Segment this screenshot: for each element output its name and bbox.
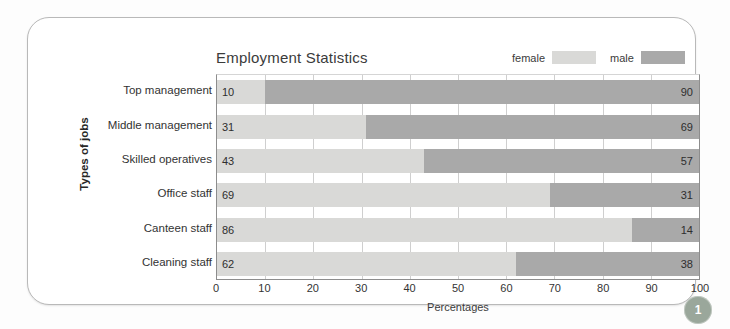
bar-value-male: 38	[681, 258, 693, 270]
category-axis-labels: Top managementMiddle managementSkilled o…	[90, 74, 212, 280]
bar-segment-female: 86	[217, 218, 632, 242]
bar-segment-female: 43	[217, 149, 424, 173]
bar-segment-male: 90	[265, 80, 699, 104]
bar-segment-male: 38	[516, 252, 699, 276]
category-label: Canteen staff	[90, 222, 212, 234]
x-tick-label: 20	[307, 282, 319, 294]
x-tick-label: 50	[452, 282, 464, 294]
bar-value-female: 31	[222, 121, 234, 133]
plot-area: 109031694357693186146238	[216, 74, 700, 280]
bar-segment-female: 10	[217, 80, 265, 104]
bar-row: 3169	[217, 115, 699, 139]
legend-item-male: male	[610, 51, 685, 64]
bar-row: 1090	[217, 80, 699, 104]
bar-value-male: 31	[681, 189, 693, 201]
chart-title: Employment Statistics	[216, 49, 368, 66]
bar-segment-male: 31	[550, 183, 699, 207]
y-axis-title: Types of jobs	[78, 94, 90, 214]
x-tick-label: 10	[258, 282, 270, 294]
bar-value-male: 14	[681, 224, 693, 236]
x-tick-label: 70	[549, 282, 561, 294]
page-canvas: Employment Statistics female male Types …	[0, 0, 730, 329]
bar-row: 4357	[217, 149, 699, 173]
category-label: Middle management	[90, 119, 212, 131]
legend-swatch-female	[552, 51, 596, 64]
bar-segment-male: 57	[424, 149, 699, 173]
legend-swatch-male	[641, 51, 685, 64]
x-tick-label: 60	[500, 282, 512, 294]
bar-segment-female: 62	[217, 252, 516, 276]
bar-row: 6931	[217, 183, 699, 207]
bar-value-male: 90	[681, 86, 693, 98]
category-label: Office staff	[90, 187, 212, 199]
category-label: Top management	[90, 84, 212, 96]
bar-row: 6238	[217, 252, 699, 276]
chart-legend: female male	[512, 51, 685, 64]
x-tick-label: 30	[355, 282, 367, 294]
legend-label-female: female	[512, 52, 545, 64]
category-label: Skilled operatives	[90, 153, 212, 165]
bar-value-female: 43	[222, 155, 234, 167]
bar-segment-female: 31	[217, 115, 366, 139]
x-tick-label: 0	[213, 282, 219, 294]
legend-item-female: female	[512, 51, 596, 64]
x-tick-label: 80	[597, 282, 609, 294]
legend-label-male: male	[610, 52, 634, 64]
bar-rows: 109031694357693186146238	[217, 75, 699, 279]
bar-value-female: 69	[222, 189, 234, 201]
x-tick-label: 90	[645, 282, 657, 294]
bar-value-female: 86	[222, 224, 234, 236]
bar-value-male: 57	[681, 155, 693, 167]
bar-segment-female: 69	[217, 183, 550, 207]
bar-value-female: 10	[222, 86, 234, 98]
bar-segment-male: 14	[632, 218, 699, 242]
x-axis-title: Percentages	[216, 301, 700, 313]
x-tick-label: 100	[691, 282, 709, 294]
bar-row: 8614	[217, 218, 699, 242]
bar-segment-male: 69	[366, 115, 699, 139]
x-tick-label: 40	[403, 282, 415, 294]
bar-value-female: 62	[222, 258, 234, 270]
page-number-badge: 1	[684, 296, 712, 324]
x-axis-tick-labels: 0102030405060708090100	[216, 282, 700, 298]
category-label: Cleaning staff	[90, 256, 212, 268]
chart-card: Employment Statistics female male Types …	[27, 17, 696, 305]
bar-value-male: 69	[681, 121, 693, 133]
